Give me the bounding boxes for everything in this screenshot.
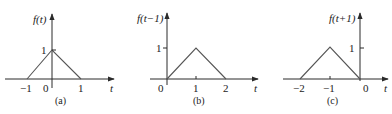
function-label: f(t+1) bbox=[329, 12, 356, 25]
x-tick-label: 1 bbox=[193, 82, 199, 94]
panel-c: f(t+1) 1 −2 −1 0 t (c) bbox=[283, 12, 388, 107]
x-tick-label: 0 bbox=[363, 82, 369, 94]
panel-caption: (b) bbox=[193, 95, 205, 107]
y-tick-label: 1 bbox=[156, 42, 162, 54]
x-tick-label: 0 bbox=[158, 82, 164, 94]
panel-a: f(t) 1 −1 0 1 t (a) bbox=[5, 13, 114, 107]
x-tick-label: 0 bbox=[43, 82, 49, 94]
y-tick-label: 1 bbox=[349, 42, 355, 54]
triangle-pulse bbox=[167, 48, 226, 79]
x-tick-label: −1 bbox=[323, 82, 335, 94]
x-tick-label: −2 bbox=[293, 82, 305, 94]
x-tick-label: 1 bbox=[78, 82, 84, 94]
y-tick-label: 1 bbox=[41, 44, 47, 56]
panel-caption: (a) bbox=[55, 95, 66, 107]
axis-variable-label: t bbox=[110, 82, 114, 94]
x-tick-label: −1 bbox=[20, 82, 32, 94]
x-tick-label: 2 bbox=[223, 82, 229, 94]
triangle-shift-diagram: f(t) 1 −1 0 1 t (a) f(t−1) 1 0 1 2 t (b)… bbox=[0, 0, 392, 114]
panel-b: f(t−1) 1 0 1 2 t (b) bbox=[137, 12, 258, 107]
function-label: f(t) bbox=[33, 13, 47, 26]
axis-variable-label: t bbox=[254, 82, 258, 94]
function-label: f(t−1) bbox=[137, 12, 164, 25]
axis-variable-label: t bbox=[384, 82, 388, 94]
panel-caption: (c) bbox=[327, 95, 338, 107]
triangle-pulse bbox=[27, 50, 81, 79]
